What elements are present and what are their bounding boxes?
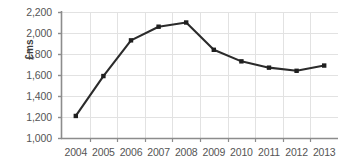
data-point [129,38,133,42]
x-tick-label: 2010 [230,146,253,158]
x-tick-label: 2008 [175,146,198,158]
plot-area [0,0,342,165]
data-point [267,65,271,69]
data-point [184,20,188,24]
x-tick-label: 2013 [313,146,336,158]
x-tick-label: 2006 [120,146,143,158]
data-point [101,74,105,78]
x-tick-label: 2009 [203,146,226,158]
data-point [212,48,216,52]
x-tick-label: 2011 [258,146,280,158]
data-point [239,59,243,63]
data-point [156,25,160,29]
x-tick-label: 2004 [65,146,88,158]
data-point [322,63,326,67]
x-tick-label: 2005 [92,146,115,158]
x-tick-label: 2012 [285,146,308,158]
data-point [294,69,298,73]
line-chart: £ms 2,200 2,000 1,800 1,600 1,400 1,200 … [0,0,342,165]
data-point [74,114,78,118]
x-tick-label: 2007 [147,146,170,158]
